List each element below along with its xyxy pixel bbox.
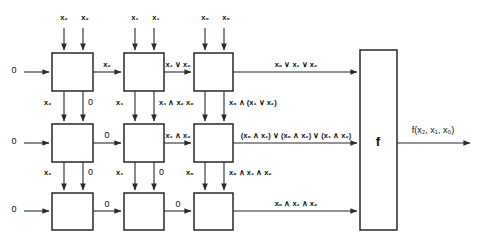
cell-r1c3 <box>194 53 233 91</box>
top-input-label-c2-right: x₁ <box>152 14 159 22</box>
vlabel-c3-left-r2r3: x₀ <box>186 169 194 177</box>
top-input-label-c1-right: x₂ <box>81 14 89 22</box>
row3-label-seg3: x₀ ∧ x₁ ∧ x₂ <box>275 200 318 208</box>
top-input-label-c1-left: x₂ <box>60 14 68 22</box>
vlabel-c1-right-r1r2: 0 <box>88 98 93 107</box>
vlabel-c1-right-r2r3: 0 <box>88 168 93 177</box>
row1-label-seg2: x₁ ∨ x₂ <box>166 61 191 69</box>
row2-label-seg3: (x₀ ∧ x₁) ∨ (x₀ ∧ x₂) ∨ (x₁ ∧ x₂) <box>241 132 351 140</box>
left-input-label-r1: 0 <box>11 66 16 75</box>
vlabel-c2-left-r2r3: x₁ <box>116 169 123 177</box>
top-input-label-c3-right: x₀ <box>222 14 230 22</box>
wire-layer <box>0 0 478 241</box>
row1-label-seg3: x₀ ∨ x₁ ∨ x₂ <box>275 61 318 69</box>
row3-label-seg1: 0 <box>104 200 109 209</box>
left-input-label-r2: 0 <box>11 137 16 146</box>
cell-r3c1 <box>52 193 93 230</box>
row1-label-seg1: x₂ <box>103 61 111 69</box>
vlabel-c2-left-r1r2: x₁ <box>116 99 123 107</box>
cell-r2c3 <box>194 124 233 162</box>
cell-r2c1 <box>52 124 93 162</box>
vlabel-c3-right-r1r2: x₀ ∧ (x₁ ∨ x₂) <box>229 99 277 107</box>
vlabel-c3-right-r2r3: x₀ ∧ x₁ ∧ x₂ <box>229 169 272 177</box>
row2-label-seg1: 0 <box>104 131 109 140</box>
left-input-label-r3: 0 <box>11 205 16 214</box>
row3-label-seg2: 0 <box>175 200 180 209</box>
row2-label-seg2: x₁ ∧ x₂ <box>166 132 191 140</box>
cell-r3c2 <box>124 193 164 230</box>
circuit-diagram: 0 0 0 x₂ x₂ x₁ x₁ x₀ x₀ x₂ x₁ ∨ x₂ x₀ ∨ … <box>0 0 478 241</box>
vlabel-c1-left-r1r2: x₂ <box>44 99 52 107</box>
vlabel-c2-right-r2r3: 0 <box>159 168 164 177</box>
top-input-label-c2-left: x₁ <box>131 14 138 22</box>
cell-r1c1 <box>52 53 93 91</box>
vlabel-c3-left-r1r2: x₀ <box>186 99 194 107</box>
cell-r2c2 <box>124 124 164 162</box>
cell-r3c3 <box>194 193 233 230</box>
vlabel-c1-left-r2r3: x₂ <box>44 169 52 177</box>
cell-r1c2 <box>124 53 164 91</box>
f-output-label: f(x₂, x₁, x₀) <box>412 126 454 135</box>
f-block-symbol: f <box>376 135 380 148</box>
vlabel-c2-right-r1r2: x₁ ∧ x₂ <box>159 99 184 107</box>
top-input-label-c3-left: x₀ <box>201 14 209 22</box>
